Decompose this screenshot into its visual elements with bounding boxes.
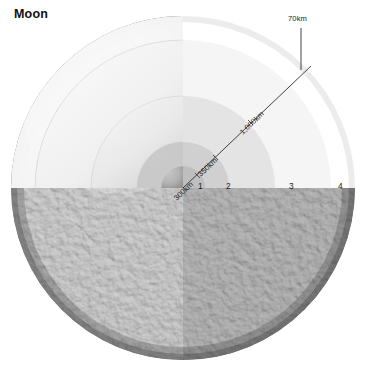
layer-number-1: 1	[198, 181, 203, 191]
layer-number-4: 4	[338, 181, 343, 191]
layer-number-2: 2	[226, 181, 231, 191]
label-crust-thickness: 70km	[288, 14, 307, 23]
figure-canvas: Moon 300km 350km 1,000km 70km 1 2 3 4	[0, 0, 366, 370]
layer-number-3: 3	[289, 181, 294, 191]
page-title: Moon	[14, 7, 48, 21]
